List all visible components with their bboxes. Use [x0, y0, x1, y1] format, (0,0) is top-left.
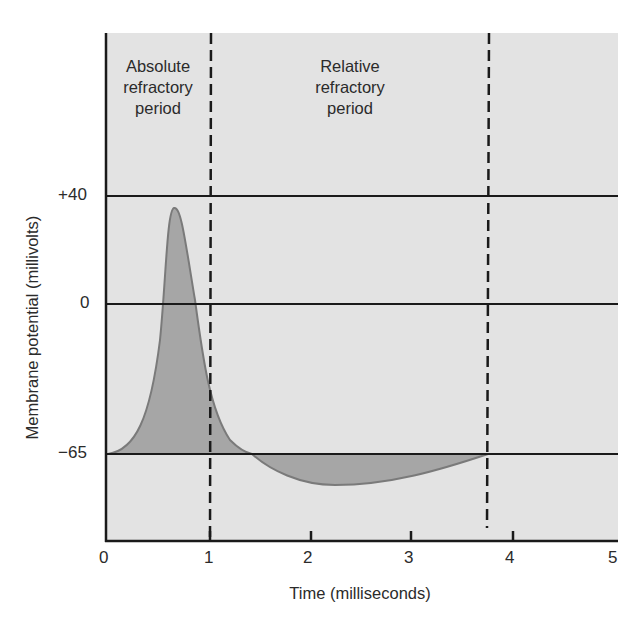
- absolute-label-line1: Absolute: [108, 56, 208, 77]
- relative-label-line2: refractory: [295, 77, 405, 98]
- y-tick-label-zero: 0: [80, 293, 89, 313]
- y-tick-label-plus40: +40: [58, 185, 87, 205]
- absolute-refractory-label: Absolute refractory period: [108, 56, 208, 119]
- absolute-label-line3: period: [108, 98, 208, 119]
- relative-refractory-label: Relative refractory period: [295, 56, 405, 119]
- absolute-label-line2: refractory: [108, 77, 208, 98]
- x-tick-label-0: 0: [99, 548, 108, 568]
- x-tick-label-4: 4: [505, 548, 514, 568]
- x-tick-label-2: 2: [303, 548, 312, 568]
- relative-label-line1: Relative: [295, 56, 405, 77]
- y-axis-label: Membrane potential (millivolts): [23, 208, 42, 448]
- x-axis-label: Time (milliseconds): [250, 583, 470, 604]
- x-tick-label-3: 3: [404, 548, 413, 568]
- x-tick-label-5: 5: [608, 548, 617, 568]
- y-tick-label-minus65: −65: [58, 443, 87, 463]
- x-tick-label-1: 1: [204, 548, 213, 568]
- relative-label-line3: period: [295, 98, 405, 119]
